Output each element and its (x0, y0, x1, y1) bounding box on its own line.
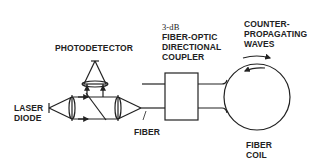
detector-lens-icon (82, 81, 108, 87)
laser-diode-label-line2: DIODE (14, 113, 43, 123)
coupler-box (165, 73, 198, 120)
fiber-coil-label-line2: COIL (246, 150, 272, 160)
coupler-label-line2: FIBER-OPTIC (162, 32, 221, 42)
fiber-coil-icon (224, 64, 290, 130)
waves-label-line1: COUNTER- (244, 19, 307, 29)
coil-leads (198, 80, 227, 113)
coupler-label: 3-dB FIBER-OPTIC DIRECTIONAL COUPLER (162, 22, 221, 62)
collimating-lens-icon (69, 95, 75, 121)
clockwise-arrow-icon (243, 56, 270, 58)
fiber-label: FIBER (134, 127, 160, 137)
waves-label-line3: WAVES (244, 39, 307, 49)
coupler-label-line3: DIRECTIONAL (162, 42, 221, 52)
gyroscope-diagram: PHOTODETECTOR LASER DIODE FIBER 3-dB FIB… (0, 0, 329, 165)
fiber-coil-label-line1: FIBER (246, 140, 272, 150)
coupler-label-line1: 3-dB (162, 22, 221, 32)
coupler-label-line4: COUPLER (162, 52, 221, 62)
counterclockwise-arrow-icon (245, 68, 265, 71)
fiber-coil-label: FIBER COIL (246, 140, 272, 160)
fiber-line (141, 84, 165, 120)
waves-label-line2: PROPAGATING (244, 29, 307, 39)
beam-paths (72, 84, 118, 120)
photodetector-label: PHOTODETECTOR (55, 43, 133, 53)
focusing-lens-icon (115, 95, 141, 121)
laser-diode-label: LASER DIODE (14, 103, 43, 123)
waves-label: COUNTER- PROPAGATING WAVES (244, 19, 307, 49)
laser-diode-label-line1: LASER (14, 103, 43, 113)
